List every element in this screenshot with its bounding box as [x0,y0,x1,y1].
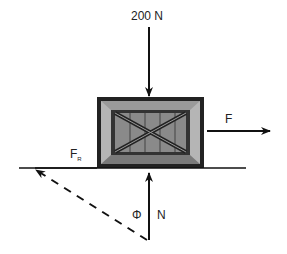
angle-label: Φ [132,209,142,221]
crate [97,97,204,168]
pull-force-label: F [225,113,232,125]
force-diagram [0,0,287,254]
normal-force-label: N [157,209,166,221]
friction-force-label: FR [70,148,82,162]
friction-label-subscript: R [77,156,81,162]
resultant-dashed-arrow [36,170,147,240]
applied-force-label: 200 N [131,10,163,22]
